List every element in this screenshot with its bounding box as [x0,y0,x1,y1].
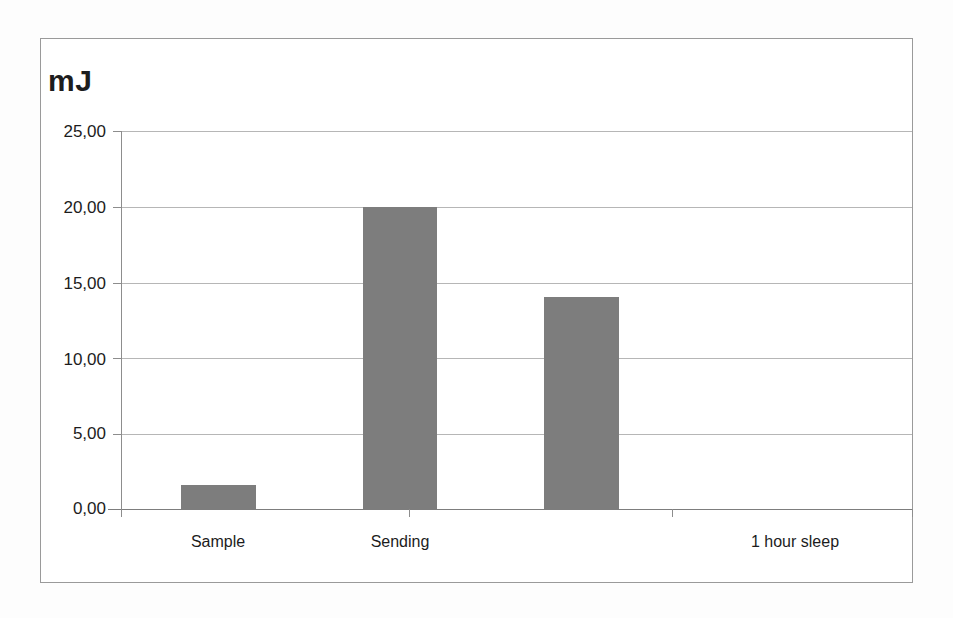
y-tick-label-10: 10,00 [36,350,106,370]
gridline-5 [121,434,912,435]
y-tick-label-0: 0,00 [36,499,106,519]
y-tick-label-20: 20,00 [36,198,106,218]
y-axis-tick-label-group: 25,00 20,00 15,00 10,00 5,00 0,00 [36,0,106,618]
x-tick-mark-end [912,509,913,517]
gridline-20 [121,207,912,208]
x-tick-mark-start [121,509,122,517]
bar-1-hour-sleep [544,297,619,509]
y-tick-label-15: 15,00 [36,274,106,294]
gridline-15 [121,283,912,284]
y-tick-label-25: 25,00 [36,122,106,142]
bar-sending [363,207,437,509]
plot-area [121,131,912,509]
x-category-label-sample: Sample [158,533,278,551]
gridline-25 [121,131,912,132]
gridline-10 [121,358,912,359]
y-tick-label-5: 5,00 [36,424,106,444]
x-category-label-1-hour-sleep: 1 hour sleep [715,533,875,551]
x-axis-line [108,509,913,510]
bar-sample [181,485,256,509]
x-tick-mark-1 [409,509,410,517]
scanned-figure-page: mJ 25,00 20,00 15,00 10,00 5,00 0,00 Sam… [0,0,953,618]
y-axis-line [121,131,122,511]
x-tick-mark-2 [672,509,673,517]
x-category-label-sending: Sending [340,533,460,551]
